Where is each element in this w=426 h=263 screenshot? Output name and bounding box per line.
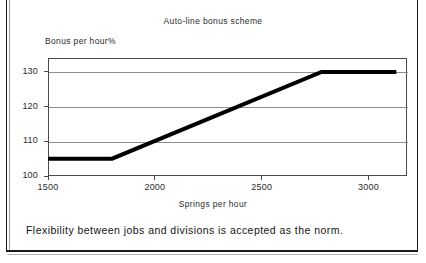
y-tick-label-130: 130: [12, 66, 38, 76]
page-border-left-inner: [9, 0, 10, 250]
page-border-left: [6, 0, 7, 252]
x-tick-2500: [261, 176, 262, 180]
y-tick-110: [44, 141, 48, 142]
gridline-y-130: [49, 72, 408, 73]
y-tick-130: [44, 71, 48, 72]
y-tick-120: [44, 106, 48, 107]
x-tick-label-2000: 2000: [135, 182, 175, 192]
y-axis-label: Bonus per hour%: [45, 36, 116, 46]
x-axis-label: Springs per hour: [0, 199, 426, 209]
x-tick-3000: [368, 176, 369, 180]
figure-caption: Flexibility between jobs and divisions i…: [26, 224, 343, 236]
chart-page: Auto-line bonus scheme Bonus per hour% 1…: [0, 0, 426, 263]
gridline-y-110: [49, 142, 408, 143]
page-border-bottom: [6, 250, 418, 252]
chart-title: Auto-line bonus scheme: [0, 16, 426, 26]
page-border-bottom-inner: [8, 254, 418, 255]
plot-area: [48, 58, 407, 176]
y-tick-label-100: 100: [12, 170, 38, 180]
y-tick-label-110: 110: [12, 135, 38, 145]
x-tick-label-1500: 1500: [28, 182, 68, 192]
page-border-right: [417, 0, 418, 252]
x-tick-1500: [48, 176, 49, 180]
x-tick-label-2500: 2500: [242, 182, 282, 192]
x-tick-label-3000: 3000: [349, 182, 389, 192]
gridline-y-120: [49, 107, 408, 108]
y-tick-label-120: 120: [12, 101, 38, 111]
x-tick-2000: [154, 176, 155, 180]
